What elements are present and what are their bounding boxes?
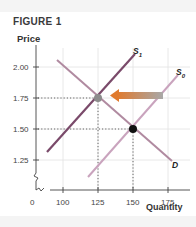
grid-lines bbox=[36, 48, 190, 190]
d-label: D bbox=[172, 160, 178, 170]
new-equilibrium-point bbox=[94, 94, 102, 102]
chart-plot bbox=[0, 0, 196, 227]
equilibrium-guides bbox=[38, 98, 133, 190]
initial-equilibrium-point bbox=[129, 125, 137, 133]
s1-label: S1 bbox=[133, 46, 142, 58]
s0-label: S0 bbox=[176, 67, 185, 79]
